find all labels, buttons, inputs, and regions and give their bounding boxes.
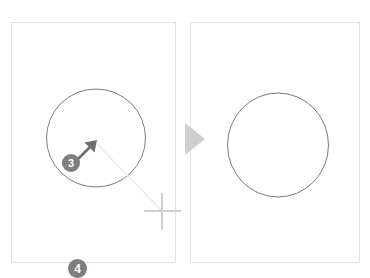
- triangle-right-icon: [183, 121, 207, 157]
- crosshair-horizontal-bar: [144, 210, 181, 212]
- after-panel-shape-circle[interactable]: [191, 23, 361, 264]
- step-badge-4: 4: [68, 259, 87, 278]
- crosshair-vertical-bar: [161, 193, 163, 230]
- figure-canvas: 3 4: [0, 0, 370, 278]
- step-badge-3-label: 3: [68, 158, 74, 169]
- step-badge-3: 3: [62, 154, 80, 172]
- crosshair-icon[interactable]: [144, 193, 181, 230]
- step-badge-4-label: 4: [74, 263, 81, 275]
- after-panel: [190, 22, 360, 263]
